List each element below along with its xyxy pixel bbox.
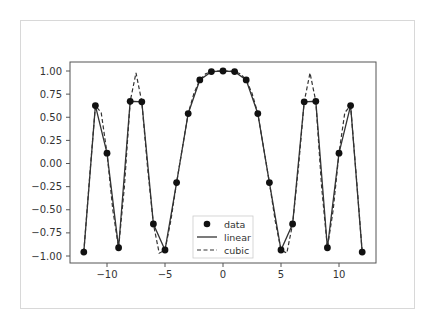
x-tick-label: −10 xyxy=(96,269,117,280)
legend: data linear cubic xyxy=(193,216,253,258)
y-tick-label: 0.00 xyxy=(40,158,62,169)
x-axis: −10−50510 xyxy=(96,263,345,280)
y-tick-label: −0.75 xyxy=(31,227,62,238)
data-point xyxy=(185,110,192,117)
data-point xyxy=(208,68,215,75)
data-point xyxy=(347,102,354,109)
data-point xyxy=(254,110,261,117)
data-point xyxy=(324,244,331,251)
data-point xyxy=(312,98,319,105)
data-point xyxy=(80,249,87,256)
data-point xyxy=(278,247,285,254)
data-point xyxy=(289,221,296,228)
data-point xyxy=(92,102,99,109)
y-axis: 1.000.750.500.250.00−0.25−0.50−0.75−1.00 xyxy=(31,66,70,262)
data-point xyxy=(127,98,134,105)
y-tick-label: 0.75 xyxy=(40,89,62,100)
data-point xyxy=(104,150,111,157)
y-tick-label: 0.50 xyxy=(40,112,62,123)
data-point xyxy=(359,249,366,256)
y-tick-label: 1.00 xyxy=(40,66,62,77)
y-tick-label: −0.25 xyxy=(31,181,62,192)
data-point xyxy=(115,244,122,251)
x-tick-label: 0 xyxy=(220,269,226,280)
data-point xyxy=(301,98,308,105)
data-point xyxy=(162,247,169,254)
data-point xyxy=(150,221,157,228)
y-tick-label: −1.00 xyxy=(31,251,62,262)
data-point xyxy=(220,68,227,75)
data-point xyxy=(266,179,273,186)
legend-data-marker-icon xyxy=(204,221,211,228)
data-point xyxy=(196,77,203,84)
data-point xyxy=(243,77,250,84)
legend-label-data: data xyxy=(224,219,245,230)
x-tick-label: 10 xyxy=(333,269,346,280)
data-point xyxy=(173,179,180,186)
data-point xyxy=(231,68,238,75)
x-tick-label: −5 xyxy=(158,269,173,280)
x-tick-label: 5 xyxy=(278,269,284,280)
data-point xyxy=(336,150,343,157)
legend-label-cubic: cubic xyxy=(224,245,249,256)
y-tick-label: −0.50 xyxy=(31,204,62,215)
legend-label-linear: linear xyxy=(224,232,251,243)
data-point xyxy=(138,98,145,105)
y-tick-label: 0.25 xyxy=(40,135,62,146)
chart-canvas: 1.000.750.500.250.00−0.25−0.50−0.75−1.00… xyxy=(0,0,434,327)
